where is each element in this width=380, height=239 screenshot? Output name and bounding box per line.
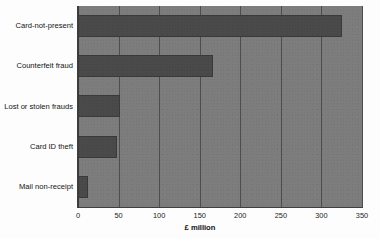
category-label: Counterfeit fraud: [0, 61, 73, 70]
bar: [78, 15, 342, 37]
x-axis-line: [77, 207, 363, 208]
bars-layer: [78, 6, 362, 207]
category-label: Card-not-present: [0, 21, 73, 30]
x-tick-label: 100: [153, 211, 165, 220]
x-tick-label: 300: [315, 211, 327, 220]
bar-row: [78, 86, 362, 126]
x-tick-label: 250: [275, 211, 287, 220]
category-label: Card ID theft: [0, 142, 73, 151]
bar-chart: Card-not-presentCounterfeit fraudLost or…: [0, 0, 380, 239]
bar-row: [78, 127, 362, 167]
x-axis-title: £ million: [185, 223, 216, 232]
bar: [78, 55, 213, 77]
x-tick-label: 150: [194, 211, 206, 220]
x-tick-label: 0: [76, 211, 80, 220]
bar: [78, 176, 88, 198]
plot-area: [78, 6, 362, 207]
gridline: [362, 6, 363, 207]
bar: [78, 95, 120, 117]
y-axis-line: [77, 6, 78, 208]
category-label: Lost or stolen frauds: [0, 102, 73, 111]
category-label: Mail non-receipt: [0, 182, 73, 191]
x-tick-label: 200: [234, 211, 246, 220]
bar-row: [78, 167, 362, 207]
bar-row: [78, 46, 362, 86]
bar-row: [78, 6, 362, 46]
x-tick-label: 350: [356, 211, 368, 220]
x-tick-label: 50: [114, 211, 122, 220]
bar: [78, 136, 117, 158]
